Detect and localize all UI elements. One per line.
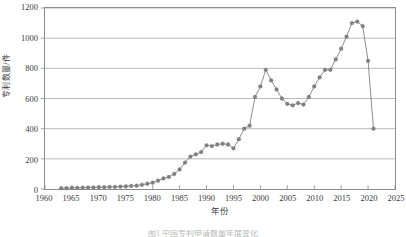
series-marker — [92, 186, 96, 190]
series-marker — [140, 183, 144, 187]
x-axis-tick-label: 2020 — [360, 194, 377, 203]
y-axis-tick-label: 400 — [25, 125, 38, 134]
series-marker — [215, 143, 219, 147]
y-axis-tick-label: 200 — [25, 155, 38, 164]
series-marker — [189, 155, 193, 159]
series-marker — [75, 186, 79, 190]
y-axis-tick-label: 800 — [25, 64, 38, 73]
series-marker — [339, 47, 343, 51]
series-marker — [178, 168, 182, 172]
series-marker — [172, 172, 176, 176]
series-marker — [285, 102, 289, 106]
series-marker — [361, 24, 365, 28]
series-marker — [237, 137, 241, 141]
series-marker — [232, 146, 236, 150]
data-series-patent-count — [45, 8, 395, 189]
series-marker — [302, 103, 306, 107]
series-marker — [205, 143, 209, 147]
series-marker — [372, 127, 376, 131]
series-marker — [280, 97, 284, 101]
series-marker — [70, 186, 74, 190]
series-marker — [65, 186, 69, 190]
series-marker — [269, 79, 273, 83]
series-line — [61, 22, 373, 189]
series-marker — [86, 186, 90, 190]
series-marker — [345, 35, 349, 39]
series-marker — [97, 185, 101, 189]
series-marker — [199, 150, 203, 154]
series-marker — [312, 85, 316, 89]
x-axis-tick-label: 1995 — [225, 194, 242, 203]
series-marker — [242, 127, 246, 131]
series-marker — [291, 103, 295, 107]
series-marker — [145, 182, 149, 186]
x-axis-tick-labels: 1960196519701975198019851990199520002005… — [44, 194, 396, 206]
x-axis-tick-label: 1960 — [36, 194, 53, 203]
series-marker — [296, 101, 300, 105]
x-axis-tick-label: 2010 — [306, 194, 323, 203]
series-marker — [102, 185, 106, 189]
series-marker — [59, 186, 63, 190]
series-marker — [108, 185, 112, 189]
series-marker — [329, 68, 333, 72]
series-marker — [355, 20, 359, 24]
series-marker — [113, 185, 117, 189]
series-marker — [210, 144, 214, 148]
series-marker — [151, 181, 155, 185]
series-marker — [81, 186, 85, 190]
x-axis-tick-label: 1985 — [171, 194, 188, 203]
plot-area — [44, 7, 396, 190]
series-marker — [366, 59, 370, 63]
series-marker — [221, 142, 225, 146]
series-marker — [275, 88, 279, 92]
series-marker — [259, 85, 263, 89]
x-axis-tick-label: 2025 — [388, 194, 405, 203]
series-marker — [334, 57, 338, 61]
series-marker — [183, 161, 187, 165]
series-marker — [162, 177, 166, 181]
x-axis-tick-label: 1970 — [90, 194, 107, 203]
figure-patent-count-by-year: 020040060080010001200 专利数量/件 19601965197… — [0, 0, 406, 237]
series-marker — [129, 184, 133, 188]
series-marker — [156, 179, 160, 183]
y-axis-title: 专利数量/件 — [3, 40, 11, 112]
x-axis-tick-label: 1980 — [144, 194, 161, 203]
y-axis-tick-label: 1000 — [21, 33, 38, 42]
x-axis-tick-label: 2015 — [333, 194, 350, 203]
y-axis-tick-label: 1200 — [21, 3, 38, 12]
series-marker — [248, 124, 252, 128]
series-marker — [135, 184, 139, 188]
series-marker — [226, 143, 230, 147]
series-marker — [167, 175, 171, 179]
series-marker — [264, 68, 268, 72]
x-axis-tick-label: 2005 — [279, 194, 296, 203]
series-marker — [124, 184, 128, 188]
series-marker — [194, 152, 198, 156]
y-axis-tick-label: 600 — [25, 94, 38, 103]
series-marker — [323, 68, 327, 72]
x-axis-tick-label: 1965 — [63, 194, 80, 203]
series-marker — [119, 185, 123, 189]
series-marker — [307, 95, 311, 99]
x-axis-tick-label: 2000 — [252, 194, 269, 203]
x-axis-title: 年份 — [44, 207, 396, 216]
x-axis-tick-label: 1975 — [117, 194, 134, 203]
series-marker — [253, 95, 257, 99]
series-marker — [350, 21, 354, 25]
figure-caption: 图1 中国专利申请数量年度变化 — [0, 230, 406, 237]
x-axis-tick-label: 1990 — [198, 194, 215, 203]
series-marker — [318, 76, 322, 80]
